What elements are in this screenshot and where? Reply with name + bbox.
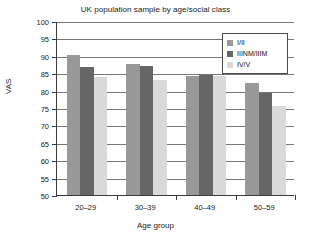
bar (199, 75, 213, 195)
legend-swatch-icon (227, 40, 233, 46)
y-axis-tick-label: 100 (36, 18, 49, 27)
x-axis-title: Age group (0, 221, 311, 230)
y-axis-tick-label: 60 (41, 157, 49, 166)
y-axis-tick-label: 70 (41, 122, 49, 131)
y-axis-tick-label: 95 (41, 35, 49, 44)
bar (126, 64, 140, 195)
y-axis-tick (52, 196, 57, 197)
bar (186, 76, 200, 195)
legend-item-label: I/II (237, 39, 245, 46)
legend-item-label: IIINM/IIIM (237, 50, 267, 57)
bar (259, 93, 273, 195)
y-axis-tick-label: 65 (41, 139, 49, 148)
x-axis-category-label: 40–49 (194, 203, 215, 212)
bar (140, 66, 154, 195)
chart-figure: UK population sample by age/social class… (0, 0, 311, 240)
y-axis-tick-label: 80 (41, 87, 49, 96)
y-axis-tick-label: 55 (41, 174, 49, 183)
bar (245, 83, 259, 195)
y-axis-tick-label: 90 (41, 52, 49, 61)
legend-swatch-icon (227, 62, 233, 68)
x-axis-tick (117, 195, 118, 200)
legend-item[interactable]: I/II (227, 37, 283, 48)
x-axis-tick (176, 195, 177, 200)
bar (153, 80, 167, 195)
legend-item[interactable]: IV/V (227, 59, 283, 70)
bar (67, 55, 81, 195)
x-axis-tick (236, 195, 237, 200)
chart-title: UK population sample by age/social class (0, 5, 311, 14)
y-axis-tick-label: 75 (41, 105, 49, 114)
legend-swatch-icon (227, 51, 233, 57)
bar (272, 106, 286, 195)
x-axis-category-label: 30–39 (135, 203, 156, 212)
y-axis-tick-label: 85 (41, 70, 49, 79)
legend-item-label: IV/V (237, 61, 250, 68)
y-axis-tick-label: 50 (41, 192, 49, 201)
bar (213, 76, 227, 195)
legend-item[interactable]: IIINM/IIIM (227, 48, 283, 59)
bar (94, 77, 108, 195)
y-axis-title: VAS (4, 79, 13, 94)
chart-legend: I/IIIIINM/IIIMIV/V (222, 33, 288, 74)
x-axis-category-label: 50–59 (254, 203, 275, 212)
bar (80, 67, 94, 195)
x-axis-category-label: 20–29 (75, 203, 96, 212)
x-axis-tick (295, 195, 296, 200)
